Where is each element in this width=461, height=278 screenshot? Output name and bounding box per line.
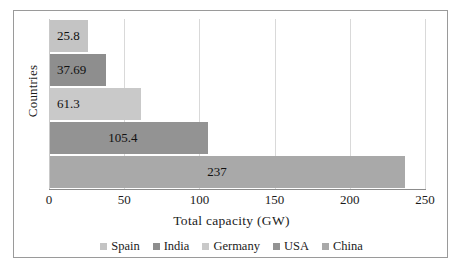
bar-china: 237 (49, 156, 405, 188)
legend-label: India (164, 239, 190, 254)
legend-label: Germany (213, 239, 260, 254)
plot-area: 25.837.6961.3105.4237 (49, 19, 425, 189)
bar-series: 25.837.6961.3105.4237 (49, 19, 425, 189)
legend-label: Spain (111, 239, 139, 254)
legend-label: USA (284, 239, 309, 254)
bar-usa: 105.4 (49, 122, 208, 154)
x-tick-label: 50 (118, 192, 131, 208)
legend-item-germany[interactable]: Germany (202, 239, 260, 254)
bar-value-label: 61.3 (57, 96, 80, 112)
x-axis-line (49, 189, 426, 190)
bar-value-label: 25.8 (57, 28, 80, 44)
x-tick-label: 100 (190, 192, 210, 208)
gridline (425, 19, 426, 189)
legend-swatch-icon (273, 243, 280, 250)
x-tick-label: 0 (46, 192, 53, 208)
x-tick-label: 200 (340, 192, 360, 208)
legend-item-china[interactable]: China (322, 239, 363, 254)
figure-caption (13, 266, 453, 278)
x-tick-label: 150 (265, 192, 285, 208)
y-axis-label: Countries (25, 36, 41, 146)
x-axis-label: Total capacity (GW) (14, 213, 449, 229)
chart-legend: SpainIndiaGermanyUSAChina (14, 239, 449, 254)
legend-swatch-icon (322, 243, 329, 250)
bar-india: 37.69 (49, 54, 106, 86)
legend-label: China (333, 239, 363, 254)
legend-swatch-icon (202, 243, 209, 250)
legend-item-india[interactable]: India (153, 239, 190, 254)
bar-value-label: 37.69 (57, 62, 86, 78)
bar-value-label: 105.4 (108, 130, 137, 146)
legend-item-spain[interactable]: Spain (100, 239, 139, 254)
figure-frame: Countries 25.837.6961.3105.4237 05010015… (13, 10, 448, 258)
x-axis-ticks: 050100150200250 (49, 192, 425, 210)
x-tick-label: 250 (415, 192, 435, 208)
bar-spain: 25.8 (49, 20, 88, 52)
legend-item-usa[interactable]: USA (273, 239, 309, 254)
bar-germany: 61.3 (49, 88, 141, 120)
legend-swatch-icon (100, 243, 107, 250)
bar-value-label: 237 (207, 164, 227, 180)
chart-canvas: Countries 25.837.6961.3105.4237 05010015… (14, 11, 449, 259)
y-axis-line (49, 19, 50, 189)
legend-swatch-icon (153, 243, 160, 250)
